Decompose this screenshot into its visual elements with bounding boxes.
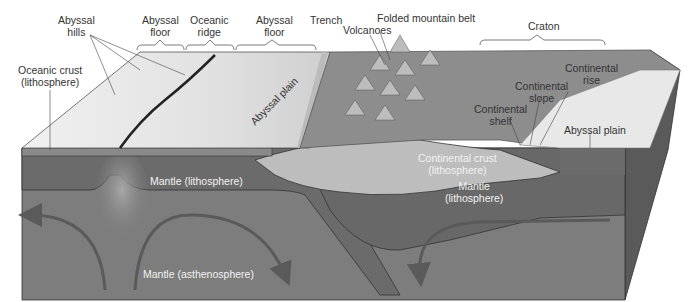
continental-rise-label: Continentalrise	[565, 62, 618, 86]
trench-label: Trench	[310, 14, 342, 26]
oceanic-crust-label: Oceanic crust(lithosphere)	[18, 64, 82, 88]
block-diagram: Abyssalhills Abyssalfloor Oceanicridge A…	[0, 0, 689, 302]
abyssal-floor-left-label: Abyssalfloor	[142, 14, 179, 38]
continental-slope-label: Continentalslope	[515, 80, 568, 104]
diagram-graphic	[0, 0, 689, 302]
mantle-lithosphere-left-label: Mantle (lithosphere)	[150, 175, 243, 187]
craton-label: Craton	[528, 20, 560, 32]
mantle-asthenosphere-label: Mantle (asthenosphere)	[143, 268, 254, 280]
abyssal-floor-right-label: Abyssalfloor	[256, 14, 293, 38]
abyssal-plain-right-edge	[560, 148, 625, 175]
oceanic-crust-layer	[22, 148, 272, 156]
folded-mountain-belt-label: Folded mountain belt	[377, 12, 475, 24]
continental-shelf-label: Continentalshelf	[474, 103, 527, 127]
abyssal-plain-right-label: Abyssal plain	[564, 124, 626, 136]
abyssal-hills-label: Abyssalhills	[58, 14, 95, 38]
volcanoes-label: Volcanoes	[343, 24, 391, 36]
continental-crust-label: Continental crust(lithosphere)	[418, 152, 497, 176]
rising-plume	[94, 150, 150, 250]
oceanic-ridge-label: Oceanicridge	[190, 14, 229, 38]
mantle-lithosphere-right-label: Mantle(lithosphere)	[445, 180, 503, 204]
